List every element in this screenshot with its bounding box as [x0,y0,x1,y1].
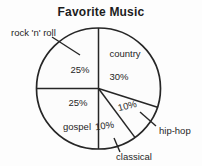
pie-slice-label-gospel: gospel [63,121,91,132]
pie-chart-figure: Favorite Music 30%country10%hip-hop10%cl… [0,0,202,166]
pie-slice-value-rock-n-roll: 25% [70,64,90,75]
pie-slice-value-country: 30% [109,71,129,82]
pie-slice-label-hip-hop: hip-hop [159,125,191,136]
pie-chart: 30%country10%hip-hop10%classical25%gospe… [0,0,202,166]
pie-slice-value-gospel: 25% [68,97,88,108]
pie-slice-label-country: country [109,48,140,59]
pie-slice-label-classical: classical [116,151,152,162]
pie-slice-label-rock-n-roll: rock 'n' roll [11,27,56,38]
